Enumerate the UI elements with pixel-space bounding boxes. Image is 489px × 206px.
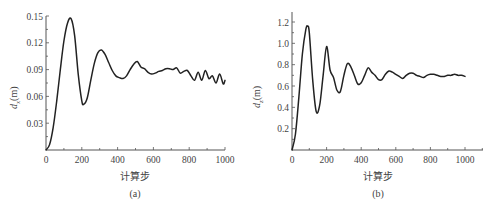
series-line-d_x (46, 18, 225, 150)
y-tick-label: 0.03 (26, 119, 43, 129)
ylabel-unit: (m) (8, 86, 19, 100)
y-tick-label: 0.15 (26, 12, 43, 22)
y-tick-label: 0.8 (277, 60, 289, 70)
x-tick-label: 800 (182, 155, 197, 165)
chart-a-ylabel: dx(m) (8, 59, 22, 109)
chart-b-ylabel: dz(m) (251, 58, 265, 108)
ylabel-symbol: d (251, 103, 262, 108)
chart-a-xlabel: 计算步 (105, 168, 165, 183)
ylabel-unit: (m) (251, 86, 262, 100)
chart-panel-a: 0.030.060.090.120.1502004006008001000 dx… (0, 0, 245, 206)
x-tick-label: 600 (389, 155, 404, 165)
x-tick-label: 200 (75, 155, 90, 165)
y-tick-label: 1.2 (277, 18, 289, 28)
x-tick-label: 400 (110, 155, 125, 165)
y-tick-label: 0.2 (277, 124, 289, 134)
series-line-d_z (292, 26, 465, 150)
y-tick-label: 0.12 (26, 38, 43, 48)
x-tick-label: 800 (423, 155, 438, 165)
chart-panel-b: 0.20.40.60.81.01.202004006008001000 dz(m… (245, 0, 489, 206)
ylabel-symbol: d (8, 104, 19, 109)
x-tick-label: 1000 (456, 155, 475, 165)
y-tick-label: 0.09 (26, 65, 43, 75)
x-tick-label: 0 (44, 155, 49, 165)
x-tick-label: 0 (290, 155, 295, 165)
y-tick-label: 0.4 (277, 103, 289, 113)
x-tick-label: 200 (319, 155, 334, 165)
chart-a-caption: (a) (115, 188, 155, 199)
chart-b-xlabel: 计算步 (348, 168, 408, 183)
chart-b-caption: (b) (358, 188, 398, 199)
y-tick-label: 1.0 (277, 39, 289, 49)
y-tick-label: 0.6 (277, 82, 289, 92)
x-tick-label: 1000 (216, 155, 235, 165)
x-tick-label: 400 (354, 155, 369, 165)
ylabel-subscript: x (14, 101, 22, 104)
ylabel-subscript: z (257, 100, 265, 103)
x-tick-label: 600 (146, 155, 161, 165)
y-tick-label: 0.06 (26, 92, 43, 102)
